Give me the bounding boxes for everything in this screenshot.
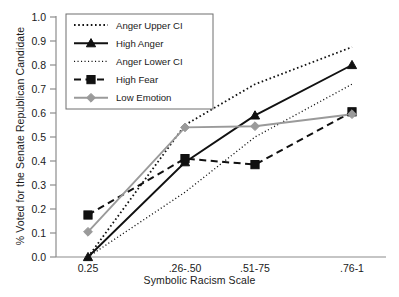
plot-canvas: 0.00.10.20.30.40.50.60.70.80.91.0 0.25.2… [0, 0, 399, 297]
y-tick-label: 0.3 [31, 179, 46, 191]
x-tick-label: .26-.50 [169, 262, 202, 274]
square-marker [181, 155, 189, 163]
chart-legend: Anger Upper CIHigh AngerAnger Lower CIHi… [66, 14, 213, 109]
legend-label: Low Emotion [116, 92, 171, 103]
y-axis-tick-group: 0.00.10.20.30.40.50.60.70.80.91.0 [31, 11, 56, 263]
square-marker [251, 161, 259, 169]
series-line-low-emotion [88, 114, 352, 232]
legend-square-marker [87, 76, 95, 84]
legend-label: High Anger [116, 38, 164, 49]
y-tick-label: 0.2 [31, 203, 46, 215]
x-tick-label: 0.25 [78, 262, 99, 274]
y-tick-label: 1.0 [31, 11, 46, 23]
square-marker [84, 211, 92, 219]
series-markers-high-fear [84, 108, 356, 219]
y-tick-label: 0.7 [31, 83, 46, 95]
x-tick-label: .51-75 [240, 262, 270, 274]
series-line-anger-lower-ci [88, 84, 352, 257]
y-tick-label: 0.5 [31, 131, 46, 143]
y-tick-label: 0.6 [31, 107, 46, 119]
y-tick-label: 0.9 [31, 35, 46, 47]
y-tick-label: 0.4 [31, 155, 46, 167]
legend-label: Anger Upper CI [116, 20, 183, 31]
diamond-marker [251, 122, 260, 131]
triangle-marker [250, 111, 259, 119]
y-tick-label: 0.8 [31, 59, 46, 71]
series-markers-low-emotion [84, 110, 357, 236]
legend-label: Anger Lower CI [116, 56, 183, 67]
legend-item-high-fear[interactable]: High Fear [74, 74, 159, 85]
legend-label: High Fear [116, 74, 159, 85]
y-tick-label: 0.1 [31, 227, 46, 239]
x-tick-label: .76-1 [340, 262, 364, 274]
chart-figure: % Voted for the Senate Republican Candid… [0, 0, 399, 297]
triangle-marker [347, 60, 356, 68]
x-axis-tick-group: 0.25.26-.50.51-75.76-1 [78, 262, 364, 274]
y-tick-label: 0.0 [31, 251, 46, 263]
